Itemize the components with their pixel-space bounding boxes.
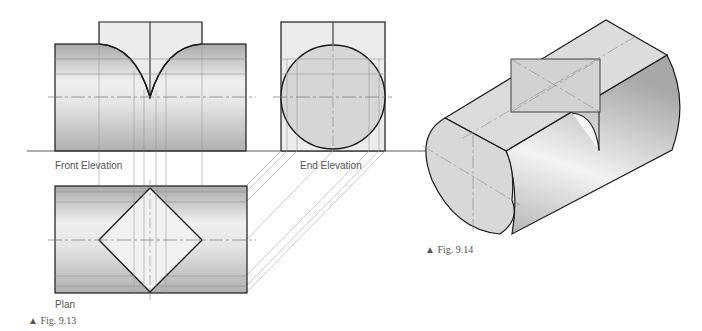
end-elevation — [273, 22, 392, 151]
projection-lines — [246, 151, 385, 293]
figure-caption-9-13: ▲ Fig. 9.13 — [28, 315, 76, 326]
end-elevation-label: End Elevation — [300, 160, 362, 171]
plan-view — [48, 180, 256, 300]
plan-label: Plan — [55, 299, 75, 310]
figure-caption-9-14: ▲ Fig. 9.14 — [425, 244, 473, 255]
isometric-view — [423, 20, 680, 234]
front-elevation-label: Front Elevation — [55, 160, 122, 171]
